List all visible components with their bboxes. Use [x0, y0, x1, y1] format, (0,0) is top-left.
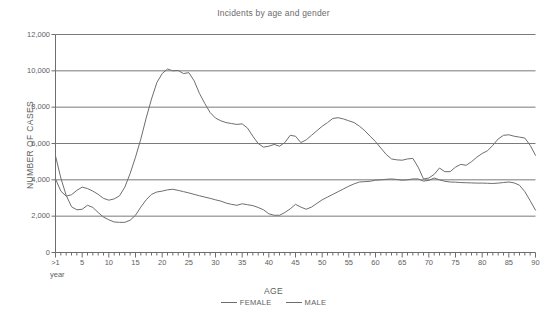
y-tick-label: 2,000	[6, 211, 50, 220]
y-tick-label: 8,000	[6, 102, 50, 111]
series-line-male	[56, 69, 536, 200]
x-tick-label: 85	[494, 258, 524, 267]
x-tick-label: 20	[147, 258, 177, 267]
y-tick-label: 12,000	[6, 30, 50, 39]
x-tick-label: 25	[174, 258, 204, 267]
x-tick-label: 40	[254, 258, 284, 267]
x-tick-label: 70	[414, 258, 444, 267]
x-axis-title: AGE	[0, 286, 547, 296]
y-tick-label: 4,000	[6, 175, 50, 184]
x-axis-year-note: year	[50, 270, 65, 279]
x-tick-label: 10	[94, 258, 124, 267]
y-tick-label: 10,000	[6, 66, 50, 75]
series-line-female	[56, 156, 536, 222]
x-tick-label: 50	[307, 258, 337, 267]
y-tick-label: 6,000	[6, 139, 50, 148]
y-tick-label: 0	[6, 248, 50, 257]
chart-legend: FEMALEMALE	[0, 298, 547, 307]
x-tick-label: 55	[334, 258, 364, 267]
x-tick-label: 60	[361, 258, 391, 267]
x-tick-label: >1	[41, 258, 71, 267]
x-tick-label: 75	[441, 258, 471, 267]
legend-label: FEMALE	[240, 298, 272, 307]
legend-item-female[interactable]: FEMALE	[221, 298, 272, 307]
legend-label: MALE	[305, 298, 327, 307]
plot-area	[0, 0, 547, 315]
x-tick-label: 30	[201, 258, 231, 267]
x-tick-label: 90	[521, 258, 547, 267]
legend-item-male[interactable]: MALE	[286, 298, 327, 307]
x-tick-label: 80	[467, 258, 497, 267]
x-tick-label: 45	[281, 258, 311, 267]
x-tick-label: 35	[227, 258, 257, 267]
x-tick-label: 65	[387, 258, 417, 267]
legend-line-icon	[286, 302, 302, 303]
chart-container: Incidents by age and gender NUMBER OF CA…	[0, 0, 547, 315]
x-tick-label: 15	[121, 258, 151, 267]
x-tick-label: 5	[67, 258, 97, 267]
legend-line-icon	[221, 302, 237, 303]
